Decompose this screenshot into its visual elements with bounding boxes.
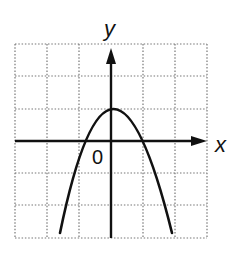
- y-axis-arrow-icon: [106, 48, 116, 64]
- y-axis-label: y: [104, 18, 115, 40]
- x-axis-arrow-icon: [191, 136, 207, 146]
- x-axis-label: x: [215, 134, 226, 156]
- parabola-curve: [60, 109, 172, 233]
- origin-label: 0: [92, 147, 103, 167]
